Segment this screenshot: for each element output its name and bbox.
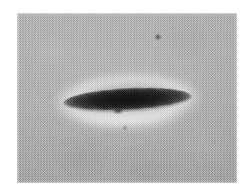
- debris-speck: [155, 34, 161, 40]
- debris-speck: [212, 141, 215, 144]
- debris-speck: [48, 95, 51, 98]
- figure-canvas: [0, 0, 249, 191]
- debris-speck: [123, 126, 127, 130]
- micrograph-plate: [17, 13, 237, 183]
